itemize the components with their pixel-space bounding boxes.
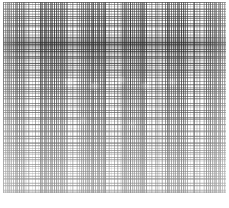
band-halo (3, 52, 226, 84)
horizontal-major-gridlines (3, 2, 226, 193)
vertical-density-envelope (3, 2, 226, 193)
plot-area (3, 2, 226, 193)
horizontal-fine-gridlines (3, 2, 226, 193)
vertical-beat-gridlines (3, 2, 226, 193)
highlight-cells (3, 2, 226, 193)
horizontal-beat-gridlines (3, 2, 226, 193)
dark-horizontal-band (3, 34, 226, 54)
caption (0, 196, 229, 208)
vertical-fine-gridlines (3, 2, 226, 193)
horizontal-density-envelope (3, 2, 226, 193)
vertical-major-gridlines (3, 2, 226, 193)
vertical-coarse-gridlines (3, 2, 226, 193)
figure-root (0, 0, 229, 208)
density-clusters (3, 2, 226, 193)
